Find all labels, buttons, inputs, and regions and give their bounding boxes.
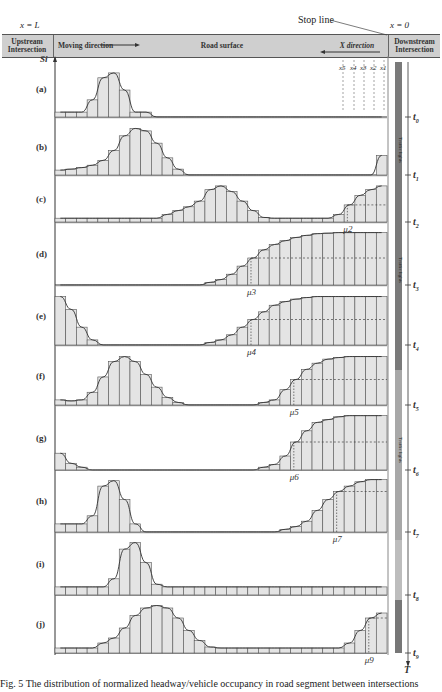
detector-label: x4 (350, 64, 357, 72)
mu-label: μ6 (290, 472, 299, 482)
mu-label: μ2 (343, 224, 352, 234)
time-tick-label: t9 (413, 647, 419, 660)
panel-label: (c) (36, 194, 46, 204)
panel-label: (j) (36, 619, 45, 629)
detector-label: x3 (360, 64, 367, 72)
panel-label: (e) (36, 311, 46, 321)
panel-label: (i) (36, 559, 45, 569)
distribution-chart: Traffic lightsTraffic lightsTraffic ligh… (0, 0, 442, 692)
panel-label: (g) (36, 433, 47, 443)
svg-text:Traffic lights: Traffic lights (398, 257, 403, 283)
panel-label: (d) (36, 249, 47, 259)
panel-label: (f) (36, 371, 45, 381)
mu-label: μ5 (290, 407, 299, 417)
time-axis-label: T (404, 664, 410, 675)
figure-caption: Fig. 5 The distribution of normalized he… (0, 678, 442, 689)
time-tick-label: t8 (413, 589, 419, 602)
time-tick-label: t7 (413, 526, 419, 539)
y-axis-label: Si (40, 54, 48, 64)
time-tick-label: t0 (413, 111, 419, 124)
mu-label: μ9 (365, 655, 374, 665)
detector-label: x1 (380, 64, 387, 72)
mu-label: μ7 (333, 534, 342, 544)
svg-text:Traffic lights: Traffic lights (398, 137, 403, 163)
detector-label: x2 (370, 64, 377, 72)
svg-text:Traffic lights: Traffic lights (398, 437, 403, 463)
time-tick-label: t2 (413, 216, 419, 229)
mu-label: μ4 (247, 347, 256, 357)
detector-label: x5 (339, 64, 346, 72)
mu-label: μ3 (247, 287, 256, 297)
panel-label: (h) (36, 496, 47, 506)
time-tick-label: t6 (413, 464, 419, 477)
time-tick-label: t5 (413, 399, 419, 412)
panel-label: (a) (36, 84, 47, 94)
panel-label: (b) (36, 142, 47, 152)
time-tick-label: t4 (413, 339, 419, 352)
time-tick-label: t3 (413, 279, 419, 292)
time-tick-label: t1 (413, 169, 419, 182)
